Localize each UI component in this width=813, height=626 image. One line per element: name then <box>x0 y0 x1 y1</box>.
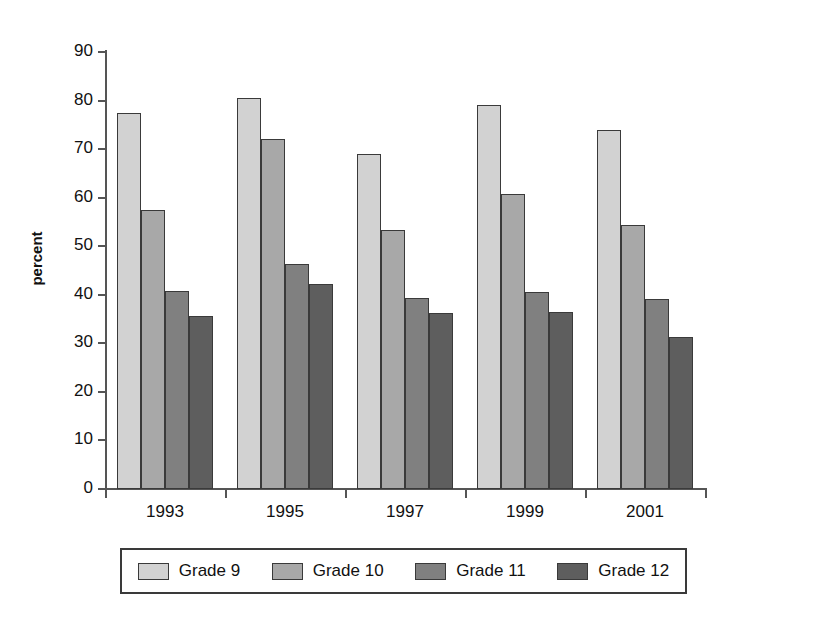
x-axis-label-2001: 2001 <box>585 502 705 522</box>
y-axis-tick-label: 40 <box>13 284 93 304</box>
legend-swatch-icon <box>138 563 169 580</box>
x-axis-label-1995: 1995 <box>225 502 345 522</box>
plot-area <box>105 52 705 489</box>
bar-grade-9-1993 <box>117 113 141 489</box>
legend-swatch-icon <box>415 563 446 580</box>
bar-grade-9-1997 <box>357 154 381 489</box>
x-axis-tick-mark <box>225 489 227 498</box>
bar-grade-11-1993 <box>165 291 189 489</box>
legend-item-grade-10: Grade 10 <box>272 561 384 581</box>
bar-grade-9-1995 <box>237 98 261 489</box>
x-axis-tick-mark <box>105 489 107 498</box>
bar-grade-11-1999 <box>525 292 549 489</box>
bar-grade-11-1997 <box>405 298 429 489</box>
legend-label: Grade 12 <box>598 561 669 581</box>
bar-grade-9-2001 <box>597 130 621 489</box>
bar-grade-12-2001 <box>669 337 693 489</box>
bar-grade-10-1993 <box>141 210 165 489</box>
bar-grade-10-1999 <box>501 194 525 489</box>
bar-grade-10-1997 <box>381 230 405 489</box>
bar-grade-11-2001 <box>645 299 669 489</box>
y-axis-tick-label: 30 <box>13 332 93 352</box>
bar-grade-11-1995 <box>285 264 309 489</box>
bar-grade-9-1999 <box>477 105 501 489</box>
bar-grade-12-1999 <box>549 312 573 489</box>
legend-swatch-icon <box>557 563 588 580</box>
y-axis-tick-label: 0 <box>13 478 93 498</box>
y-axis-tick-label: 20 <box>13 381 93 401</box>
legend-item-grade-9: Grade 9 <box>138 561 240 581</box>
x-axis-tick-mark <box>705 489 707 498</box>
bar-grade-12-1995 <box>309 284 333 489</box>
bar-chart-figure: percent 0102030405060708090 199319951997… <box>0 0 813 626</box>
bar-grade-12-1993 <box>189 316 213 489</box>
bar-grade-10-2001 <box>621 225 645 489</box>
legend-label: Grade 10 <box>313 561 384 581</box>
y-axis-tick-label: 80 <box>13 90 93 110</box>
x-axis-label-1997: 1997 <box>345 502 465 522</box>
y-axis-tick-label: 90 <box>13 41 93 61</box>
bar-grade-10-1995 <box>261 139 285 489</box>
x-axis-label-1993: 1993 <box>105 502 225 522</box>
x-axis-tick-mark <box>585 489 587 498</box>
y-axis-tick-label: 50 <box>13 235 93 255</box>
legend-label: Grade 9 <box>179 561 240 581</box>
y-axis-tick-label: 60 <box>13 187 93 207</box>
legend-swatch-icon <box>272 563 303 580</box>
chart-legend: Grade 9Grade 10Grade 11Grade 12 <box>120 548 687 594</box>
x-axis-tick-mark <box>465 489 467 498</box>
bar-grade-12-1997 <box>429 313 453 489</box>
x-axis-tick-mark <box>345 489 347 498</box>
y-axis-tick-label: 10 <box>13 429 93 449</box>
y-axis-tick-label: 70 <box>13 138 93 158</box>
x-axis-label-1999: 1999 <box>465 502 585 522</box>
legend-label: Grade 11 <box>456 561 526 581</box>
legend-item-grade-11: Grade 11 <box>415 561 526 581</box>
legend-item-grade-12: Grade 12 <box>557 561 669 581</box>
